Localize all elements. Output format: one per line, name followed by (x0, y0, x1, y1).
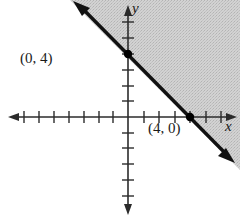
x-intercept-label: (4, 0) (148, 120, 181, 137)
y-intercept-label: (0, 4) (20, 50, 53, 67)
x-axis-label: x (225, 118, 232, 135)
y-axis-label: y (132, 0, 139, 17)
point-y-intercept (124, 50, 132, 58)
point-x-intercept (186, 113, 194, 121)
coordinate-plane-svg (0, 0, 245, 222)
graph-figure: (0, 4) (4, 0) x y (0, 0, 245, 222)
